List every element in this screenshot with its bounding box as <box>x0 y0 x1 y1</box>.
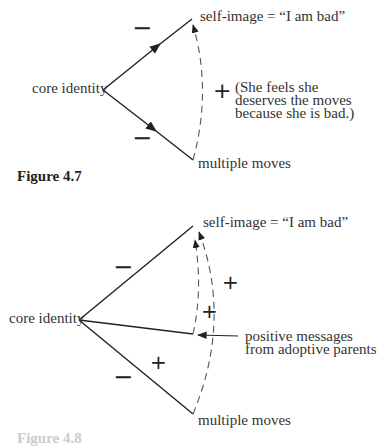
line-core-to-positive-messages <box>79 320 193 334</box>
fig47-label-core: core identity <box>32 80 107 97</box>
fig48-label-core: core identity <box>9 310 84 327</box>
fig47-sign-lower: − <box>132 124 152 152</box>
fig48-messages-line: from adoptive parents <box>245 343 377 356</box>
fig47-label-moves: multiple moves <box>198 155 291 172</box>
fig48-sign-lower: − <box>113 363 133 391</box>
fig47-sign-upper: − <box>132 14 152 42</box>
arrow-core-to-selfimage-tail <box>160 19 192 44</box>
arrow-core-to-selfimage-head <box>103 44 160 90</box>
fig48-caption: Figure 4.8 <box>17 430 82 447</box>
dashed-arrow-messages-to-selfimage <box>193 240 199 334</box>
fig48-sign-outer: + <box>222 270 239 294</box>
fig48-sign-inner: + <box>201 299 218 323</box>
line-core-to-selfimage <box>79 226 193 320</box>
arrow-core-to-moves-tail <box>156 131 193 160</box>
fig48-sign-region: + <box>150 350 167 374</box>
fig47-note: (She feels she deserves the moves becaus… <box>235 81 354 120</box>
fig48-label-messages: positive messages from adoptive parents <box>245 330 377 356</box>
figure-4-7 <box>103 19 203 160</box>
fig47-caption: Figure 4.7 <box>17 168 82 185</box>
fig48-label-moves: multiple moves <box>198 412 291 429</box>
fig47-label-selfimage: self-image = “I am bad” <box>200 8 345 25</box>
fig47-sign-dashed: + <box>213 78 231 103</box>
fig47-note-line: because she is bad.) <box>235 107 354 120</box>
dashed-arrow-moves-to-selfimage <box>193 25 203 160</box>
dashed-arrow-moves-to-selfimage <box>193 232 214 414</box>
fig48-label-selfimage: self-image = “I am bad” <box>203 214 348 231</box>
fig48-sign-upper: − <box>113 253 133 281</box>
arrow-messages-label-pointer <box>198 335 238 336</box>
line-core-to-moves <box>79 320 193 414</box>
